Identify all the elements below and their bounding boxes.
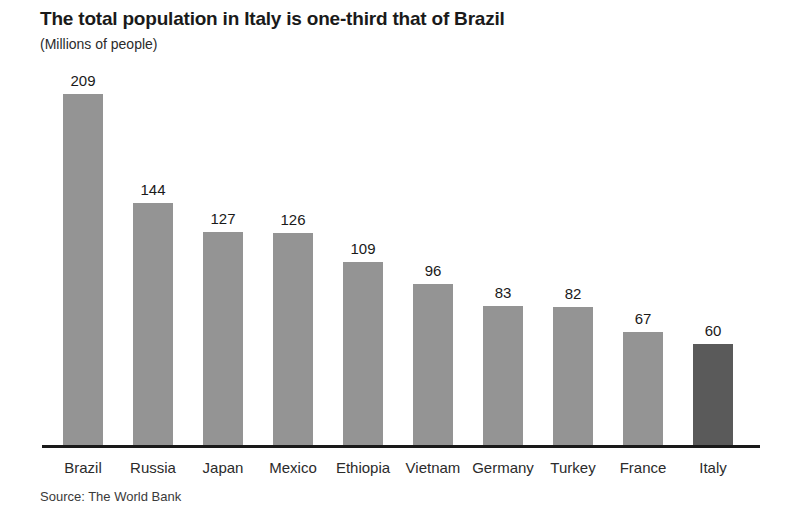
bar[interactable] bbox=[553, 307, 593, 445]
plot-area: 209Brazil144Russia127Japan126Mexico109Et… bbox=[0, 0, 793, 527]
bar-category-label: Mexico bbox=[253, 459, 333, 477]
x-axis-line bbox=[42, 445, 760, 448]
bar-value-label: 67 bbox=[608, 310, 678, 327]
bar-value-label: 83 bbox=[468, 284, 538, 301]
bar-group: 126Mexico bbox=[258, 0, 328, 445]
bar-group: 96Vietnam bbox=[398, 0, 468, 445]
bar-value-label: 127 bbox=[188, 210, 258, 227]
bar-category-label: Italy bbox=[673, 459, 753, 477]
bar-value-label: 96 bbox=[398, 262, 468, 279]
bar-category-label: Vietnam bbox=[393, 459, 473, 477]
bar-category-label: Germany bbox=[463, 459, 543, 477]
bar-group: 109Ethiopia bbox=[328, 0, 398, 445]
bar[interactable] bbox=[693, 344, 733, 445]
bar-value-label: 126 bbox=[258, 211, 328, 228]
bar-value-label: 82 bbox=[538, 285, 608, 302]
bar-value-label: 144 bbox=[118, 181, 188, 198]
bar[interactable] bbox=[133, 203, 173, 445]
bar[interactable] bbox=[483, 306, 523, 445]
bar-category-label: Brazil bbox=[43, 459, 123, 477]
bar[interactable] bbox=[203, 232, 243, 445]
bar-value-label: 209 bbox=[48, 72, 118, 89]
bar-category-label: Japan bbox=[183, 459, 263, 477]
bar[interactable] bbox=[413, 284, 453, 445]
chart-source: Source: The World Bank bbox=[40, 488, 181, 505]
bar-value-label: 60 bbox=[678, 322, 748, 339]
bar-category-label: Russia bbox=[113, 459, 193, 477]
bar-group: 67France bbox=[608, 0, 678, 445]
bar[interactable] bbox=[63, 94, 103, 445]
bar-group: 127Japan bbox=[188, 0, 258, 445]
bar-group: 82Turkey bbox=[538, 0, 608, 445]
bar-category-label: Ethiopia bbox=[323, 459, 403, 477]
bar-group: 209Brazil bbox=[48, 0, 118, 445]
bar[interactable] bbox=[273, 233, 313, 445]
bar-value-label: 109 bbox=[328, 240, 398, 257]
bar-group: 60Italy bbox=[678, 0, 748, 445]
bar[interactable] bbox=[623, 332, 663, 445]
bar-group: 144Russia bbox=[118, 0, 188, 445]
chart-figure: The total population in Italy is one-thi… bbox=[0, 0, 793, 527]
bar-category-label: France bbox=[603, 459, 683, 477]
bar[interactable] bbox=[343, 262, 383, 445]
bar-category-label: Turkey bbox=[533, 459, 613, 477]
bar-group: 83Germany bbox=[468, 0, 538, 445]
